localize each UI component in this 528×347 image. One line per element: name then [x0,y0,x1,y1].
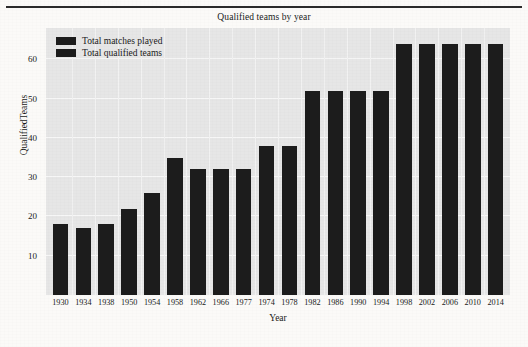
x-axis-tick-label: 1986 [324,298,347,307]
bar-slot [232,28,255,295]
bar[interactable] [465,44,481,295]
x-axis-tick-label: 1958 [164,298,187,307]
x-axis-tick-label: 1977 [232,298,255,307]
bar-slot [186,28,209,295]
x-axis-tick-label: 1962 [186,298,209,307]
bar-slot [95,28,118,295]
bar-slot [255,28,278,295]
x-axis-tick-labels: 1930193419381950195419581962196619771974… [46,298,510,307]
bar[interactable] [213,169,229,295]
legend-item[interactable]: Total qualified teams [56,48,163,58]
bar[interactable] [236,169,252,295]
bar-slot [416,28,439,295]
bar[interactable] [167,158,183,295]
bar[interactable] [259,146,275,295]
bars-container [46,28,510,295]
x-axis-tick-label: 1930 [49,298,72,307]
bar-slot [278,28,301,295]
x-axis-tick-label: 1974 [255,298,278,307]
chart-legend: Total matches playedTotal qualified team… [56,36,163,60]
x-axis-tick-label: 1934 [72,298,95,307]
y-axis-tick-label: 60 [28,54,37,64]
bar-slot [393,28,416,295]
legend-item[interactable]: Total matches played [56,36,163,46]
bar-slot [301,28,324,295]
bar-slot [347,28,370,295]
chart-title: Qualified teams by year [0,12,528,22]
bar-slot [72,28,95,295]
bar[interactable] [305,91,321,295]
bar[interactable] [282,146,298,295]
y-axis-tick-label: 30 [28,172,37,182]
plot-panel [46,28,510,295]
x-axis-tick-label: 1994 [370,298,393,307]
x-axis-tick-label: 2002 [416,298,439,307]
x-axis-tick-label: 2006 [438,298,461,307]
bar-slot [370,28,393,295]
bar[interactable] [442,44,458,295]
bar-slot [118,28,141,295]
x-axis-title: Year [46,313,510,323]
x-axis-tick-label: 1954 [141,298,164,307]
y-axis-tick-label: 20 [28,211,37,221]
x-axis-tick-label: 1998 [393,298,416,307]
bar[interactable] [121,209,137,295]
legend-swatch [56,37,76,45]
bar[interactable] [419,44,435,295]
bar-slot [324,28,347,295]
bar-slot [49,28,72,295]
bar-slot [484,28,507,295]
x-axis-tick-label: 1978 [278,298,301,307]
x-axis-tick-label: 1982 [301,298,324,307]
x-axis-tick-label: 1938 [95,298,118,307]
x-axis-tick-label: 1990 [347,298,370,307]
x-axis-tick-label: 2014 [484,298,507,307]
bar-chart-figure: Qualified teams by year QualifiedTeams 1… [0,10,528,340]
bar-slot [461,28,484,295]
page-top-rule [6,6,522,8]
bar[interactable] [144,193,160,295]
bar[interactable] [190,169,206,295]
legend-label: Total matches played [82,36,163,46]
y-axis-tick-labels: 102030405060 [0,28,42,295]
bar[interactable] [53,224,69,295]
bar[interactable] [373,91,389,295]
y-axis-tick-label: 50 [28,94,37,104]
x-axis-tick-label: 1966 [209,298,232,307]
bar[interactable] [328,91,344,295]
y-axis-tick-label: 40 [28,133,37,143]
bar-slot [141,28,164,295]
bar[interactable] [396,44,412,295]
y-axis-tick-label: 10 [28,251,37,261]
bar-slot [438,28,461,295]
bar[interactable] [76,228,92,295]
bar[interactable] [488,44,504,295]
bar[interactable] [350,91,366,295]
bar[interactable] [98,224,114,295]
legend-swatch [56,49,76,57]
x-axis-tick-label: 2010 [461,298,484,307]
x-axis-tick-label: 1950 [118,298,141,307]
legend-label: Total qualified teams [82,48,162,58]
bar-slot [164,28,187,295]
bar-slot [209,28,232,295]
